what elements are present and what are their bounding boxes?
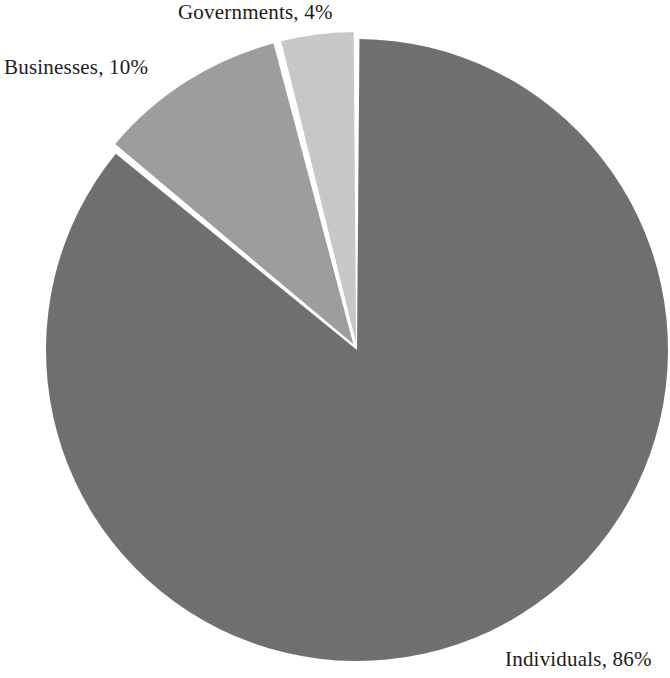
pie-label-individuals: Individuals, 86%	[505, 648, 652, 671]
pie-chart-graphic	[0, 0, 670, 678]
pie-label-businesses: Businesses, 10%	[4, 56, 148, 79]
pie-chart: Governments, 4% Businesses, 10% Individu…	[0, 0, 670, 678]
pie-label-governments: Governments, 4%	[178, 1, 333, 24]
